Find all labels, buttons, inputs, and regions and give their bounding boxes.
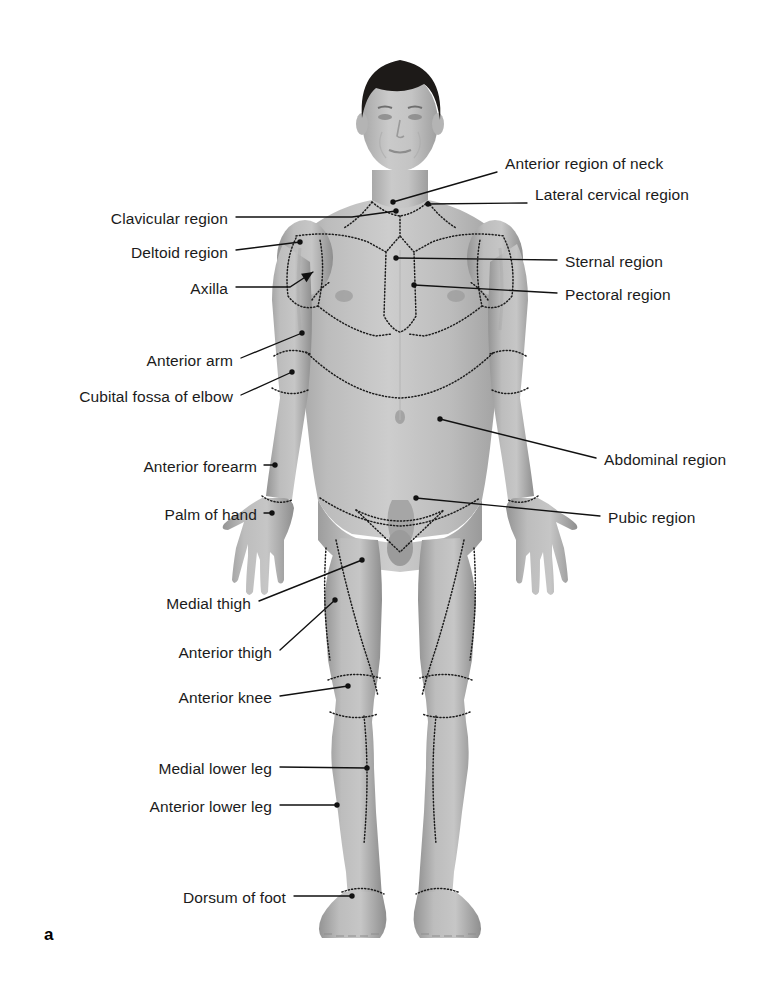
label-medial-lower-leg: Medial lower leg: [158, 761, 272, 777]
label-sternal-region: Sternal region: [565, 254, 663, 270]
label-dorsum-of-foot: Dorsum of foot: [183, 890, 286, 906]
label-abdominal-region: Abdominal region: [604, 452, 726, 468]
label-anterior-lower-leg: Anterior lower leg: [150, 799, 272, 815]
label-pubic-region: Pubic region: [608, 510, 695, 526]
label-anterior-region-of-neck: Anterior region of neck: [505, 156, 663, 172]
leader-dot-palm-of-hand: [269, 510, 274, 515]
label-pectoral-region: Pectoral region: [565, 287, 671, 303]
leader-dot-abdominal-region: [437, 416, 442, 421]
label-anterior-forearm: Anterior forearm: [143, 459, 257, 475]
label-medial-thigh: Medial thigh: [166, 596, 251, 612]
body-photo-silhouette: [223, 60, 578, 938]
leader-dot-anterior-region-of-neck: [390, 199, 395, 204]
label-anterior-thigh: Anterior thigh: [178, 645, 272, 661]
label-axilla: Axilla: [190, 281, 228, 297]
label-deltoid-region: Deltoid region: [131, 245, 228, 261]
leader-dot-pubic-region: [413, 495, 418, 500]
label-clavicular-region: Clavicular region: [111, 211, 228, 227]
leader-line-lateral-cervical-region: [428, 203, 527, 204]
label-lateral-cervical-region: Lateral cervical region: [535, 187, 689, 203]
leader-dot-deltoid-region: [297, 239, 302, 244]
leader-dot-medial-lower-leg: [364, 765, 369, 770]
leader-dot-dorsum-of-foot: [349, 893, 354, 898]
leader-dot-sternal-region: [393, 255, 398, 260]
leader-dot-anterior-knee: [345, 683, 350, 688]
label-anterior-arm: Anterior arm: [147, 353, 233, 369]
anatomical-figure-panel: Clavicular regionDeltoid regionAxillaAnt…: [0, 0, 776, 998]
label-cubital-fossa: Cubital fossa of elbow: [79, 389, 233, 405]
body-regions-illustration: [0, 0, 776, 998]
panel-letter: a: [44, 925, 53, 945]
leader-dot-anterior-thigh: [332, 597, 337, 602]
label-anterior-knee: Anterior knee: [179, 690, 273, 706]
leader-dot-medial-thigh: [359, 557, 364, 562]
leader-dot-clavicular-region: [393, 208, 398, 213]
leader-dot-lateral-cervical-region: [425, 201, 430, 206]
leader-dot-anterior-forearm: [272, 462, 277, 467]
label-palm-of-hand: Palm of hand: [164, 507, 257, 523]
leader-dot-anterior-lower-leg: [334, 802, 339, 807]
leader-dot-cubital-fossa: [289, 369, 294, 374]
leader-dot-pectoral-region: [411, 282, 416, 287]
leader-dot-anterior-arm: [299, 330, 304, 335]
